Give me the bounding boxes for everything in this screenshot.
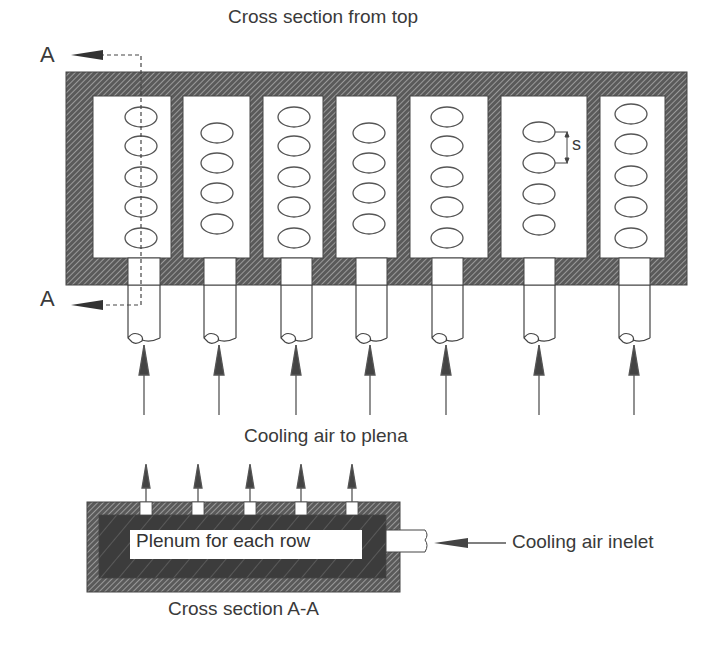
inlet-pipes bbox=[128, 285, 650, 343]
diagram-canvas bbox=[0, 0, 728, 652]
cooling-air-to-plena-label: Cooling air to plena bbox=[244, 425, 408, 447]
plenum-outlet-arrows bbox=[142, 464, 356, 502]
top-title: Cross section from top bbox=[228, 6, 418, 28]
flow-arrows-up bbox=[139, 345, 639, 415]
spacing-label: s bbox=[572, 134, 581, 155]
inlet-arrow bbox=[434, 538, 506, 548]
section-marker-bottom: A bbox=[40, 286, 55, 312]
cross-section-a-a-caption: Cross section A-A bbox=[168, 598, 319, 620]
cooling-air-inlet-label: Cooling air inelet bbox=[512, 531, 654, 553]
section-marker-top: A bbox=[40, 42, 55, 68]
top-manifold-block bbox=[66, 72, 687, 285]
plenum-label: Plenum for each row bbox=[136, 530, 310, 552]
